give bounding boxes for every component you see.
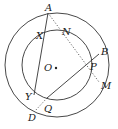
label-O: O xyxy=(44,62,52,73)
label-D: D xyxy=(27,112,36,123)
center-dot xyxy=(55,67,57,69)
diagram-canvas: A X N O B P M Y Q D xyxy=(0,0,118,129)
label-Q: Q xyxy=(44,103,52,114)
label-Y: Y xyxy=(25,91,33,102)
label-A: A xyxy=(44,2,52,13)
segment-AY xyxy=(34,13,48,95)
label-X: X xyxy=(35,30,44,41)
geometry-diagram: A X N O B P M Y Q D xyxy=(0,0,118,129)
label-M: M xyxy=(100,80,112,91)
label-N: N xyxy=(61,26,72,37)
label-B: B xyxy=(100,46,108,57)
label-P: P xyxy=(89,61,97,72)
